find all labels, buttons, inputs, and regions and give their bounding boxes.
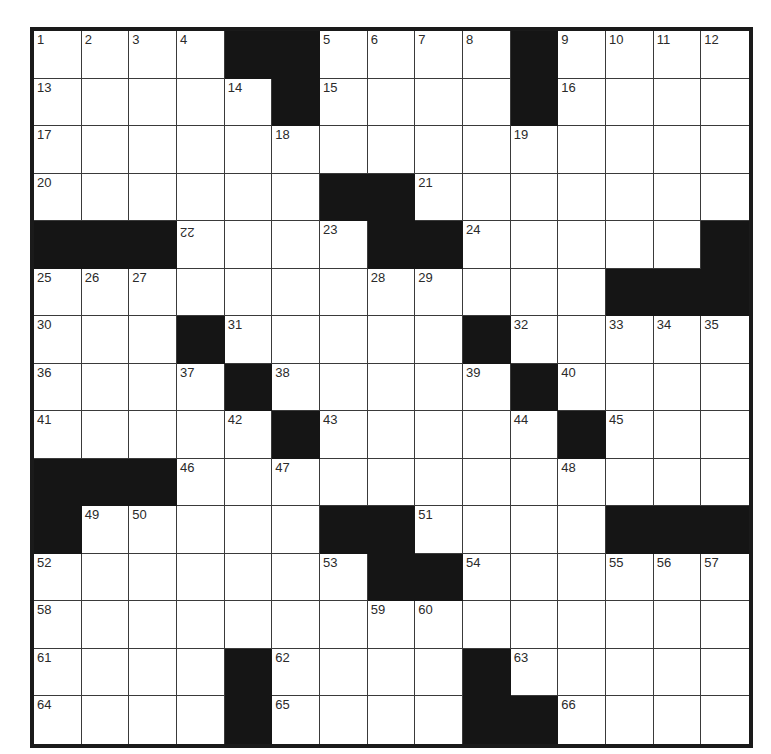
grid-cell-r1-c3[interactable] bbox=[177, 79, 225, 127]
grid-cell-r6-c6[interactable] bbox=[320, 316, 368, 364]
grid-cell-r9-c14[interactable] bbox=[701, 459, 749, 507]
grid-cell-r0-c9[interactable]: 8 bbox=[463, 31, 511, 79]
grid-cell-r11-c6[interactable]: 53 bbox=[320, 554, 368, 602]
grid-cell-r14-c0[interactable]: 64 bbox=[34, 696, 82, 744]
grid-cell-r3-c8[interactable]: 21 bbox=[415, 174, 463, 222]
grid-cell-r3-c2[interactable] bbox=[129, 174, 177, 222]
grid-cell-r7-c6[interactable] bbox=[320, 364, 368, 412]
grid-cell-r14-c12[interactable] bbox=[606, 696, 654, 744]
grid-cell-r7-c7[interactable] bbox=[368, 364, 416, 412]
grid-cell-r7-c8[interactable] bbox=[415, 364, 463, 412]
grid-cell-r7-c13[interactable] bbox=[654, 364, 702, 412]
grid-cell-r12-c9[interactable] bbox=[463, 601, 511, 649]
grid-cell-r2-c9[interactable] bbox=[463, 126, 511, 174]
grid-cell-r8-c9[interactable] bbox=[463, 411, 511, 459]
grid-cell-r6-c5[interactable] bbox=[272, 316, 320, 364]
grid-cell-r11-c2[interactable] bbox=[129, 554, 177, 602]
grid-cell-r6-c14[interactable]: 35 bbox=[701, 316, 749, 364]
grid-cell-r6-c8[interactable] bbox=[415, 316, 463, 364]
grid-cell-r0-c11[interactable]: 9 bbox=[558, 31, 606, 79]
grid-cell-r10-c5[interactable] bbox=[272, 506, 320, 554]
grid-cell-r2-c0[interactable]: 17 bbox=[34, 126, 82, 174]
grid-cell-r7-c14[interactable] bbox=[701, 364, 749, 412]
grid-cell-r5-c3[interactable] bbox=[177, 269, 225, 317]
grid-cell-r10-c8[interactable]: 51 bbox=[415, 506, 463, 554]
grid-cell-r13-c14[interactable] bbox=[701, 649, 749, 697]
grid-cell-r5-c7[interactable]: 28 bbox=[368, 269, 416, 317]
grid-cell-r9-c5[interactable]: 47 bbox=[272, 459, 320, 507]
grid-cell-r9-c3[interactable]: 46 bbox=[177, 459, 225, 507]
grid-cell-r12-c0[interactable]: 58 bbox=[34, 601, 82, 649]
grid-cell-r6-c1[interactable] bbox=[82, 316, 130, 364]
grid-cell-r8-c12[interactable]: 45 bbox=[606, 411, 654, 459]
grid-cell-r2-c5[interactable]: 18 bbox=[272, 126, 320, 174]
grid-cell-r0-c14[interactable]: 12 bbox=[701, 31, 749, 79]
grid-cell-r4-c10[interactable] bbox=[511, 221, 559, 269]
grid-cell-r2-c14[interactable] bbox=[701, 126, 749, 174]
grid-cell-r8-c13[interactable] bbox=[654, 411, 702, 459]
grid-cell-r12-c5[interactable] bbox=[272, 601, 320, 649]
grid-cell-r12-c11[interactable] bbox=[558, 601, 606, 649]
grid-cell-r7-c5[interactable]: 38 bbox=[272, 364, 320, 412]
grid-cell-r13-c2[interactable] bbox=[129, 649, 177, 697]
grid-cell-r5-c11[interactable] bbox=[558, 269, 606, 317]
grid-cell-r6-c11[interactable] bbox=[558, 316, 606, 364]
grid-cell-r6-c7[interactable] bbox=[368, 316, 416, 364]
grid-cell-r7-c2[interactable] bbox=[129, 364, 177, 412]
grid-cell-r7-c1[interactable] bbox=[82, 364, 130, 412]
grid-cell-r0-c6[interactable]: 5 bbox=[320, 31, 368, 79]
grid-cell-r9-c9[interactable] bbox=[463, 459, 511, 507]
grid-cell-r13-c1[interactable] bbox=[82, 649, 130, 697]
grid-cell-r14-c14[interactable] bbox=[701, 696, 749, 744]
grid-cell-r12-c3[interactable] bbox=[177, 601, 225, 649]
grid-cell-r8-c14[interactable] bbox=[701, 411, 749, 459]
grid-cell-r5-c4[interactable] bbox=[225, 269, 273, 317]
grid-cell-r6-c0[interactable]: 30 bbox=[34, 316, 82, 364]
grid-cell-r7-c0[interactable]: 36 bbox=[34, 364, 82, 412]
grid-cell-r11-c4[interactable] bbox=[225, 554, 273, 602]
grid-cell-r1-c2[interactable] bbox=[129, 79, 177, 127]
grid-cell-r1-c0[interactable]: 13 bbox=[34, 79, 82, 127]
grid-cell-r7-c3[interactable]: 37 bbox=[177, 364, 225, 412]
grid-cell-r7-c12[interactable] bbox=[606, 364, 654, 412]
grid-cell-r2-c8[interactable] bbox=[415, 126, 463, 174]
grid-cell-r2-c1[interactable] bbox=[82, 126, 130, 174]
grid-cell-r8-c4[interactable]: 42 bbox=[225, 411, 273, 459]
grid-cell-r13-c11[interactable] bbox=[558, 649, 606, 697]
grid-cell-r9-c12[interactable] bbox=[606, 459, 654, 507]
grid-cell-r12-c13[interactable] bbox=[654, 601, 702, 649]
grid-cell-r5-c8[interactable]: 29 bbox=[415, 269, 463, 317]
grid-cell-r14-c13[interactable] bbox=[654, 696, 702, 744]
grid-cell-r10-c3[interactable] bbox=[177, 506, 225, 554]
grid-cell-r4-c13[interactable] bbox=[654, 221, 702, 269]
grid-cell-r6-c12[interactable]: 33 bbox=[606, 316, 654, 364]
grid-cell-r3-c4[interactable] bbox=[225, 174, 273, 222]
grid-cell-r4-c6[interactable]: 23 bbox=[320, 221, 368, 269]
grid-cell-r2-c13[interactable] bbox=[654, 126, 702, 174]
grid-cell-r12-c4[interactable] bbox=[225, 601, 273, 649]
grid-cell-r13-c8[interactable] bbox=[415, 649, 463, 697]
grid-cell-r3-c14[interactable] bbox=[701, 174, 749, 222]
grid-cell-r2-c11[interactable] bbox=[558, 126, 606, 174]
grid-cell-r14-c5[interactable]: 65 bbox=[272, 696, 320, 744]
grid-cell-r11-c14[interactable]: 57 bbox=[701, 554, 749, 602]
grid-cell-r10-c1[interactable]: 49 bbox=[82, 506, 130, 554]
grid-cell-r14-c6[interactable] bbox=[320, 696, 368, 744]
grid-cell-r11-c13[interactable]: 56 bbox=[654, 554, 702, 602]
grid-cell-r12-c14[interactable] bbox=[701, 601, 749, 649]
grid-cell-r5-c10[interactable] bbox=[511, 269, 559, 317]
grid-cell-r12-c6[interactable] bbox=[320, 601, 368, 649]
grid-cell-r14-c11[interactable]: 66 bbox=[558, 696, 606, 744]
grid-cell-r13-c7[interactable] bbox=[368, 649, 416, 697]
grid-cell-r5-c0[interactable]: 25 bbox=[34, 269, 82, 317]
grid-cell-r2-c12[interactable] bbox=[606, 126, 654, 174]
grid-cell-r8-c3[interactable] bbox=[177, 411, 225, 459]
grid-cell-r14-c2[interactable] bbox=[129, 696, 177, 744]
grid-cell-r2-c2[interactable] bbox=[129, 126, 177, 174]
grid-cell-r0-c3[interactable]: 4 bbox=[177, 31, 225, 79]
grid-cell-r1-c8[interactable] bbox=[415, 79, 463, 127]
grid-cell-r9-c8[interactable] bbox=[415, 459, 463, 507]
grid-cell-r11-c1[interactable] bbox=[82, 554, 130, 602]
grid-cell-r5-c2[interactable]: 27 bbox=[129, 269, 177, 317]
grid-cell-r6-c10[interactable]: 32 bbox=[511, 316, 559, 364]
